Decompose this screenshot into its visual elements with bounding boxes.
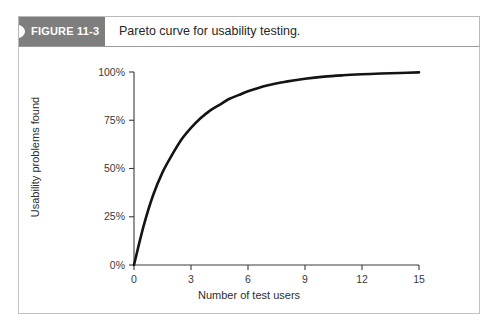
pareto-curve-line <box>134 72 419 265</box>
pareto-curve-chart: 0%25%50%75%100% 03691215 Number of test … <box>19 47 479 312</box>
y-axis-tick-label: 50% <box>104 162 125 174</box>
x-axis-tick-label: 0 <box>131 273 137 285</box>
x-axis-tick-label: 6 <box>245 273 251 285</box>
y-axis-title: Usability problems found <box>29 97 41 217</box>
x-axis-tick-label: 15 <box>413 273 425 285</box>
x-axis-tick-label: 9 <box>302 273 308 285</box>
y-axis-tick-label: 0% <box>110 259 125 271</box>
y-axis-tick-label: 100% <box>98 66 125 78</box>
x-axis-title: Number of test users <box>198 289 301 301</box>
x-axis-tick-label: 3 <box>188 273 194 285</box>
y-axis: 0%25%50%75%100% <box>98 66 134 271</box>
pareto-curve-series <box>134 72 419 265</box>
tab-notch-oval-icon <box>19 25 25 38</box>
x-axis-tick-label: 12 <box>356 273 368 285</box>
figure-caption-text: Pareto curve for usability testing. <box>119 17 300 46</box>
x-axis: 03691215 <box>131 265 425 285</box>
figure-number-label: FIGURE 11-3 <box>31 17 101 46</box>
figure-container: FIGURE 11-3 Pareto curve for usability t… <box>0 0 498 333</box>
figure-caption-bar: FIGURE 11-3 Pareto curve for usability t… <box>18 16 480 47</box>
chart-panel: 0%25%50%75%100% 03691215 Number of test … <box>18 47 480 314</box>
figure-number-tab: FIGURE 11-3 <box>19 17 105 46</box>
y-axis-tick-label: 25% <box>104 210 125 222</box>
y-axis-tick-label: 75% <box>104 114 125 126</box>
